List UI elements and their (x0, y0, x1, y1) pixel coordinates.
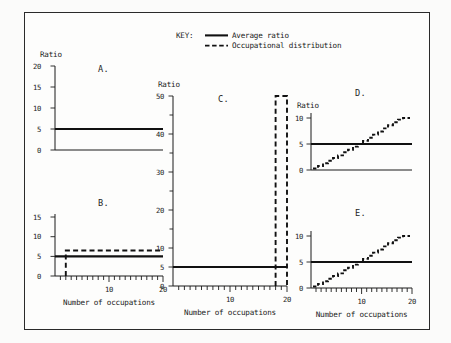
panel-e-ytick-0: 0 (299, 284, 303, 293)
panel-c-xtick-10: 10 (226, 295, 234, 304)
panel-a-y-axis-title: Ratio (40, 50, 62, 59)
panel-b-xtick-10: 10 (105, 285, 113, 294)
panel-c-y-ticks: 0 5 10 20 30 40 50 (156, 92, 173, 291)
panel-a-ytick-5: 5 (37, 125, 41, 134)
panel-c-ytick-50: 50 (156, 92, 164, 101)
panel-e-ytick-5: 5 (299, 258, 303, 267)
panel-c-ytick-20: 20 (156, 206, 164, 215)
panel-c-ytick-30: 30 (156, 168, 164, 177)
panel-a-label: A. (98, 64, 109, 74)
panel-d-y-axis-title: Ratio (297, 101, 319, 110)
panel-c-label: C. (218, 94, 229, 104)
panel-c-occupational-distribution-spike (276, 96, 287, 286)
panel-e-xtick-10: 10 (358, 297, 366, 306)
panel-c-ytick-40: 40 (156, 130, 164, 139)
panel-c-y-axis-title: Ratio (158, 80, 180, 89)
panel-a-ytick-0: 0 (37, 146, 41, 155)
panel-c-axes (173, 96, 287, 286)
panel-d-ytick-5: 5 (299, 140, 303, 149)
panel-a-axes (55, 66, 163, 150)
panel-e-x-axis-title: Number of occupations (316, 310, 408, 319)
panel-a-ytick-20: 20 (33, 62, 41, 71)
panel-e-xtick-20: 20 (408, 297, 416, 306)
panel-a-ytick-15: 15 (33, 83, 41, 92)
panel-d-label: D. (355, 88, 366, 98)
panel-e-label: E. (355, 208, 366, 218)
panel-d: D. Ratio 0 5 10 (295, 88, 412, 175)
panel-b-y-ticks: 0 5 10 15 (33, 213, 55, 281)
panel-c-ytick-5: 5 (160, 263, 164, 272)
panel-c-ytick-10: 10 (156, 244, 164, 253)
panel-d-ytick-0: 0 (299, 166, 303, 175)
panel-a-ytick-10: 10 (33, 104, 41, 113)
panel-b-ytick-15: 15 (33, 213, 41, 222)
panel-d-ytick-10: 10 (295, 114, 303, 123)
panel-b-axes (55, 214, 163, 276)
panel-b-ytick-5: 5 (37, 252, 41, 261)
panel-c-x-axis-title: Number of occupations (184, 308, 276, 317)
panel-d-y-ticks: 0 5 10 (295, 114, 311, 175)
panel-a: Ratio A. 0 5 10 15 20 (33, 50, 163, 155)
legend-label-occupational-distribution: Occupational distribution (232, 41, 341, 50)
panel-c-x-minor-ticks (179, 286, 287, 292)
panel-b-ytick-10: 10 (33, 232, 41, 241)
legend-label-average-ratio: Average ratio (232, 31, 289, 40)
panel-a-y-ticks: 0 5 10 15 20 (33, 62, 55, 155)
panel-e-x-minor-ticks (316, 288, 412, 294)
panel-c-xtick-20: 20 (283, 295, 291, 304)
panel-e-y-ticks: 0 5 10 (295, 232, 311, 293)
panel-e-ytick-10: 10 (295, 232, 303, 241)
panel-c: Ratio C. 0 5 10 20 30 40 (156, 80, 291, 317)
legend-title: KEY: (176, 31, 194, 40)
panel-b-ytick-0: 0 (37, 272, 41, 281)
figure-canvas: KEY: Average ratio Occupational distribu… (0, 0, 451, 343)
legend: KEY: Average ratio Occupational distribu… (176, 31, 341, 50)
panel-e: E. 0 5 10 (295, 208, 416, 319)
panel-b: B. 0 5 10 15 (33, 198, 167, 307)
panel-c-ytick-0: 0 (160, 282, 164, 291)
panel-b-x-axis-title: Number of occupations (63, 298, 155, 307)
panel-b-label: B. (98, 198, 109, 208)
panel-b-x-minor-ticks (60, 276, 163, 282)
figure-svg: KEY: Average ratio Occupational distribu… (0, 0, 451, 343)
panel-b-occupational-distribution-line (66, 251, 163, 277)
